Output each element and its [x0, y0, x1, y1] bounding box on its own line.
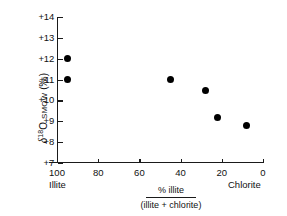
y-tick-label: +11 [39, 75, 54, 85]
x-tick-label: 100 [49, 168, 65, 178]
y-tick-mark [58, 163, 63, 164]
x-tick-label: 60 [134, 168, 145, 178]
y-tick-mark [58, 38, 63, 39]
x-axis-title-denominator: (illite + chlorite) [112, 198, 230, 211]
y-tick-mark [58, 17, 63, 18]
y-tick-label: +8 [44, 137, 54, 147]
y-tick-label: +12 [38, 54, 54, 64]
x-tick-mark [98, 159, 99, 164]
y-tick-mark [58, 100, 63, 101]
data-point [64, 55, 71, 62]
data-point [243, 122, 250, 129]
x-axis-title-numerator: % illite [146, 185, 196, 198]
y-tick-mark [58, 142, 63, 143]
x-tick-label: 80 [93, 168, 104, 178]
y-tick-label: +14 [38, 12, 54, 22]
plot-area: +7+8+9+10+11+12+13+14 100806040200 [57, 17, 263, 163]
x-axis-line [49, 162, 263, 163]
x-axis-left-end-label: Illite [49, 180, 66, 190]
x-tick-mark [222, 159, 223, 164]
x-tick-mark [57, 159, 58, 164]
y-tick-mark [58, 59, 63, 60]
data-point [202, 87, 209, 94]
x-tick-label: 20 [217, 168, 228, 178]
y-tick-label: +10 [38, 96, 54, 106]
y-tick-mark [58, 121, 63, 122]
y-tick-mark [58, 80, 63, 81]
data-point [64, 76, 71, 83]
figure: δ18O SMOW (‰) +7+8+9+10+11+12+13+14 1008… [0, 0, 287, 216]
x-axis-title: % illite (illite + chlorite) [112, 185, 230, 211]
y-tick-label: +9 [44, 117, 54, 127]
x-tick-mark [263, 159, 264, 164]
data-point [214, 114, 221, 121]
x-tick-mark [139, 159, 140, 164]
x-tick-mark [181, 159, 182, 164]
x-tick-label: 40 [175, 168, 186, 178]
y-tick-label: +13 [38, 33, 54, 43]
x-axis-right-end-label: Chlorite [228, 180, 261, 190]
data-point [167, 76, 174, 83]
x-tick-label: 0 [260, 168, 265, 178]
